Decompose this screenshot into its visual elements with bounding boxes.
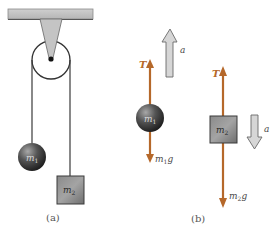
- weight-label-1: m1g: [155, 154, 173, 165]
- mass-1-ball: m1: [18, 143, 46, 171]
- tension-arrow-2-icon: [219, 66, 227, 117]
- accel-label-1: a: [180, 45, 185, 55]
- acceleration-up-arrow-icon: [162, 29, 177, 77]
- panel-a: m1 m2 (a): [8, 9, 93, 223]
- ceiling: [8, 9, 93, 19]
- caption-a: (a): [46, 212, 60, 223]
- mass-2-box: m2: [57, 176, 84, 204]
- tension-arrow-1-icon: [146, 59, 154, 110]
- fbd-mass-1: a T m1g m1: [136, 29, 185, 165]
- pulley-axle: [48, 56, 53, 61]
- accel-label-2: a: [264, 124, 269, 134]
- weight-label-2: m2g: [229, 191, 247, 202]
- fbd-mass-2: T m2g m2 a: [210, 66, 269, 208]
- mass-2-box-fbd: m2: [210, 116, 237, 143]
- tension-label-2: T: [212, 68, 221, 79]
- panel-b: a T m1g m1: [136, 29, 269, 224]
- mass-1-ball-fbd: m1: [136, 104, 164, 132]
- tension-label-1: T: [139, 59, 148, 70]
- acceleration-down-arrow-icon: [247, 115, 262, 149]
- weight-arrow-2-icon: [219, 142, 227, 208]
- caption-b: (b): [191, 213, 205, 224]
- atwood-machine-diagram: m1 m2 (a) a T: [0, 0, 278, 232]
